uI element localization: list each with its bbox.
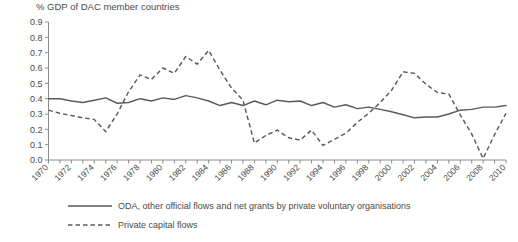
x-axis-tick-label: 1998 [350,162,371,183]
y-axis-tick-label: 0.7 [30,48,43,58]
x-axis-tick-label: 2006 [441,162,462,183]
x-axis-tick-label: 1986 [212,162,233,183]
x-axis-tick-label: 2000 [373,162,394,183]
y-axis-tick-label: 0.2 [30,125,43,135]
y-axis-tick-label: 0.4 [30,94,43,104]
x-axis-tick-label: 1990 [258,162,279,183]
legend-label-oda: ODA, other official flows and net grants… [118,201,411,211]
x-axis-tick-label: 2008 [464,162,485,183]
x-axis-tick-label: 1980 [144,162,165,183]
x-axis-tick-label: 2004 [418,162,439,183]
x-axis-tick-label: 1996 [327,162,348,183]
y-axis-tick-label: 0.3 [30,109,43,119]
legend-label-private-capital: Private capital flows [118,220,198,230]
x-axis-tick-label: 1970 [29,162,50,183]
x-axis-tick-label: 1978 [121,162,142,183]
y-axis-tick-label: 0.1 [30,140,43,150]
x-axis-tick-label: 1982 [167,162,188,183]
x-axis-tick-label: 1984 [190,162,211,183]
x-axis-tick-label: 1988 [235,162,256,183]
chart-container: % GDP of DAC member countries 0.00.10.20… [0,0,518,242]
line-chart-plot: 0.00.10.20.30.40.50.60.70.80.91970197219… [0,0,518,242]
x-axis-tick-label: 2002 [395,162,416,183]
y-axis-tick-label: 0.5 [30,79,43,89]
x-axis-tick-label: 1976 [98,162,119,183]
y-axis-tick-label: 0.6 [30,63,43,73]
series-line-private-capital [49,50,507,158]
x-axis-tick-label: 1972 [52,162,73,183]
x-axis-tick-label: 1974 [75,162,96,183]
x-axis-tick-label: 1992 [281,162,302,183]
y-axis-tick-label: 0.8 [30,33,43,43]
y-axis-tick-label: 0.9 [30,17,43,27]
x-axis-tick-label: 2010 [487,162,508,183]
x-axis-tick-label: 1994 [304,162,325,183]
